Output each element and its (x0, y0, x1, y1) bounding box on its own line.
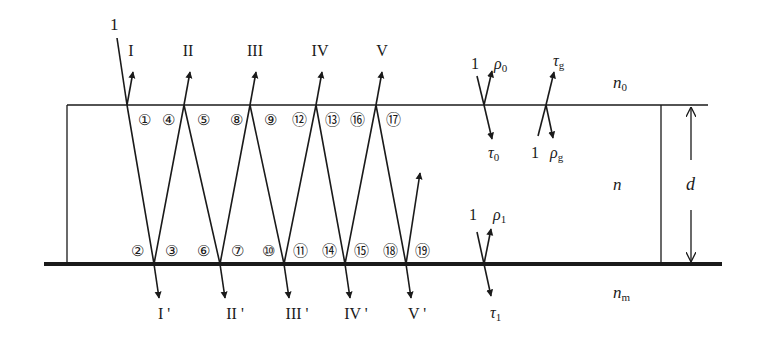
svg-text:⑨: ⑨ (264, 112, 277, 128)
legend-bottom-transmitted: τ1 (490, 304, 501, 323)
svg-text:⑮: ⑮ (354, 243, 369, 259)
incident-label: 1 (110, 15, 119, 34)
beam-IV (316, 72, 322, 105)
svg-text:①: ① (138, 112, 151, 128)
beam-label-I: I (128, 42, 133, 59)
beam-label-III-prime: III ' (286, 305, 309, 322)
beam-I-prime (154, 264, 159, 298)
svg-text:⑫: ⑫ (292, 112, 307, 128)
medium-film-label: n (613, 175, 622, 194)
reflected-beams (127, 72, 382, 105)
svg-text:⑥: ⑥ (197, 243, 210, 259)
legend-bottom-incident: 1 (469, 206, 477, 223)
beam-label-IV: IV (312, 42, 329, 59)
beam-label-V-prime: V ' (408, 305, 426, 322)
svg-text:⑧: ⑧ (230, 112, 243, 128)
beam-II (184, 72, 190, 105)
svg-text:⑦: ⑦ (231, 243, 244, 259)
beam-label-II: II (183, 42, 194, 59)
beam-label-V: V (376, 42, 388, 59)
legend-top-outside-reflected: ρ0 (493, 55, 508, 74)
svg-text:⑤: ⑤ (197, 112, 210, 128)
beam-V (376, 72, 382, 105)
beam-V-prime (406, 264, 411, 298)
beam-label-IV-prime: IV ' (344, 305, 368, 322)
svg-text:⑪: ⑪ (293, 243, 308, 259)
svg-text:③: ③ (165, 243, 178, 259)
legend-top-inside-reflected: ρg (549, 144, 564, 163)
transmitted-beams (154, 264, 411, 298)
thin-film-diagram: 1 I II III IV V I ' II ' III ' IV ' V ' … (0, 0, 757, 350)
beam-III (250, 72, 256, 105)
svg-text:②: ② (131, 243, 144, 259)
legend-bottom-reflected: ρ1 (492, 206, 506, 225)
legend-top-outside-transmitted: τ0 (488, 144, 500, 163)
beam-III-prime (284, 264, 289, 298)
incident-ray (117, 38, 127, 105)
beam-label-I-prime: I ' (158, 305, 170, 322)
beam-label-II-prime: II ' (226, 305, 244, 322)
legend-top-inside-incident: 1 (531, 144, 539, 161)
legend-top-outside-incident: 1 (471, 55, 479, 72)
svg-text:⑲: ⑲ (415, 243, 430, 259)
svg-text:⑯: ⑯ (350, 112, 365, 128)
beam-IV-prime (345, 264, 350, 298)
medium-bottom-label: nm (613, 283, 631, 303)
beam-label-III: III (247, 42, 263, 59)
svg-text:⑬: ⑬ (325, 112, 340, 128)
thickness-label: d (686, 174, 696, 194)
legend-top-inside-transmitted: τg (553, 52, 565, 71)
top-point-labels: ① ④ ⑤ ⑧ ⑨ ⑫ ⑬ ⑯ ⑰ (138, 112, 401, 128)
svg-text:⑩: ⑩ (262, 243, 275, 259)
svg-text:⑭: ⑭ (322, 243, 337, 259)
beam-I (127, 72, 133, 105)
medium-top-label: n0 (613, 73, 628, 93)
internal-zigzag (127, 105, 420, 264)
svg-text:⑰: ⑰ (386, 112, 401, 128)
svg-text:⑱: ⑱ (383, 243, 398, 259)
beam-II-prime (220, 264, 225, 298)
svg-text:④: ④ (162, 112, 175, 128)
